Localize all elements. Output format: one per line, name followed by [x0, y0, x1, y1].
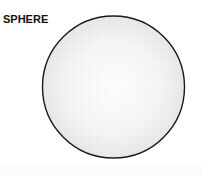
sphere-diagram [0, 0, 202, 176]
